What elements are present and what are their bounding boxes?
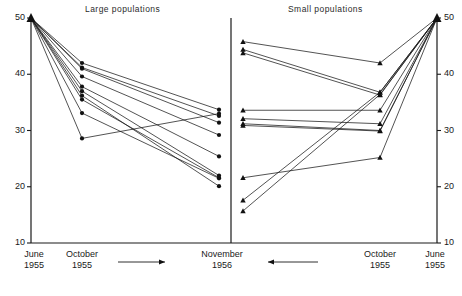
xlabel-small-june-1955-line1: June (395, 249, 462, 260)
large-series-line-L2 (31, 18, 219, 116)
small-series-line-S8 (243, 18, 437, 178)
arrow-small-direction-head (268, 259, 274, 264)
large-marker-L3-2 (217, 121, 221, 125)
xlabel-large-november-1956-line1: November (182, 249, 262, 260)
figure-root: Large populations Small populations 5050… (0, 0, 462, 296)
small-series-line-S7 (243, 18, 437, 131)
arrow-large-direction-head (159, 259, 165, 264)
xlabel-small-june-1955-line2: 1955 (395, 260, 462, 271)
y-tick-label-left-30: 30 (4, 125, 25, 135)
xlabel-large-october-1955-line1: October (42, 249, 122, 260)
large-marker-L10-2 (217, 184, 221, 188)
y-tick-label-right-50: 50 (444, 12, 454, 22)
large-marker-L7-1 (80, 97, 84, 101)
large-marker-L6-1 (80, 89, 84, 93)
y-tick-label-left-40: 40 (4, 68, 25, 78)
large-series-line-L9 (31, 18, 219, 138)
large-marker-L4-1 (80, 74, 84, 78)
large-marker-L10-1 (80, 94, 84, 98)
large-series-line-L6 (31, 18, 219, 176)
small-series-line-S4 (243, 18, 437, 110)
large-marker-L9-1 (80, 136, 84, 140)
large-series-line-L8 (31, 18, 219, 178)
large-series-line-L1 (31, 18, 219, 110)
large-marker-L4-2 (217, 133, 221, 137)
y-tick-label-left-10: 10 (4, 237, 25, 247)
xlabel-large-october-1955-line2: 1955 (42, 260, 122, 271)
xlabel-large-november-1956: November1956 (182, 249, 262, 271)
xlabel-small-june-1955: June1955 (395, 249, 462, 271)
small-series-line-S2 (243, 18, 437, 92)
y-tick-label-left-20: 20 (4, 181, 25, 191)
y-tick-label-right-20: 20 (444, 181, 454, 191)
large-marker-L9-2 (217, 112, 221, 116)
xlabel-large-november-1956-line2: 1956 (182, 260, 262, 271)
small-marker-S1-0 (240, 39, 245, 44)
xlabel-large-october-1955: October1955 (42, 249, 122, 271)
y-tick-label-right-10: 10 (444, 237, 454, 247)
small-series-line-S5 (243, 18, 437, 124)
large-marker-L1-2 (217, 108, 221, 112)
large-marker-L8-1 (80, 111, 84, 115)
large-marker-L8-2 (217, 176, 221, 180)
large-series-line-L5 (31, 18, 219, 156)
large-marker-L3-1 (80, 67, 84, 71)
small-series-line-S10 (243, 18, 437, 211)
small-series-line-S9 (243, 18, 437, 200)
large-marker-L5-2 (217, 154, 221, 158)
y-tick-label-right-30: 30 (444, 125, 454, 135)
small-marker-S8-1 (377, 155, 382, 160)
large-marker-L5-1 (80, 85, 84, 89)
large-series-line-L7 (31, 18, 219, 178)
y-tick-label-left-50: 50 (4, 12, 25, 22)
large-marker-L1-1 (80, 61, 84, 65)
y-tick-label-right-40: 40 (444, 68, 454, 78)
small-series-line-S6 (243, 18, 437, 131)
